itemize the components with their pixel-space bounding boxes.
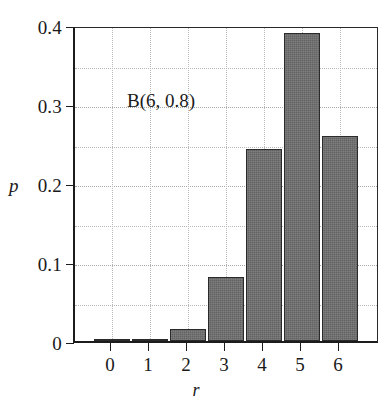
binomial-distribution-chart: 0.4 0.3 0.2 0.1 0 p B( bbox=[0, 0, 392, 407]
x-axis-tick-mark-0 bbox=[110, 343, 111, 351]
y-axis-tick-mark-0 bbox=[66, 343, 74, 344]
plot-area bbox=[73, 27, 378, 343]
y-axis-tick-label-0.3: 0.3 bbox=[38, 97, 62, 116]
bar-r-5 bbox=[284, 33, 320, 341]
bar-r-0 bbox=[94, 339, 130, 341]
x-axis-tick-mark-4 bbox=[262, 343, 263, 351]
x-axis-title: r bbox=[0, 381, 392, 399]
y-axis-tick-label-0: 0 bbox=[52, 334, 62, 353]
distribution-annotation: B(6, 0.8) bbox=[127, 91, 195, 110]
bar-r-3 bbox=[208, 277, 244, 341]
x-axis-tick-label-0: 0 bbox=[90, 355, 130, 374]
x-axis-tick-label-6: 6 bbox=[318, 355, 358, 374]
x-axis-tick-mark-1 bbox=[148, 343, 149, 351]
x-axis-tick-label-2: 2 bbox=[166, 355, 206, 374]
x-axis-tick-mark-6 bbox=[338, 343, 339, 351]
bar-r-6 bbox=[322, 136, 358, 341]
gridline-x-1 bbox=[150, 28, 151, 341]
x-axis-tick-mark-2 bbox=[186, 343, 187, 351]
y-axis-tick-label-0.1: 0.1 bbox=[38, 255, 62, 274]
bar-r-1 bbox=[132, 339, 168, 341]
gridline-x-0 bbox=[112, 28, 113, 341]
x-axis-tick-label-1: 1 bbox=[128, 355, 168, 374]
x-axis-tick-label-3: 3 bbox=[204, 355, 244, 374]
bar-r-2 bbox=[170, 329, 206, 341]
x-axis-tick-mark-3 bbox=[224, 343, 225, 351]
y-axis-title: p bbox=[9, 176, 19, 195]
x-axis-tick-label-5: 5 bbox=[280, 355, 320, 374]
gridline-x-2 bbox=[188, 28, 189, 341]
y-axis-tick-label-0.2: 0.2 bbox=[38, 176, 62, 195]
bar-r-4 bbox=[246, 149, 282, 341]
y-axis-tick-label-0.4: 0.4 bbox=[38, 18, 62, 37]
x-axis-tick-mark-5 bbox=[300, 343, 301, 351]
x-axis-tick-label-4: 4 bbox=[242, 355, 282, 374]
